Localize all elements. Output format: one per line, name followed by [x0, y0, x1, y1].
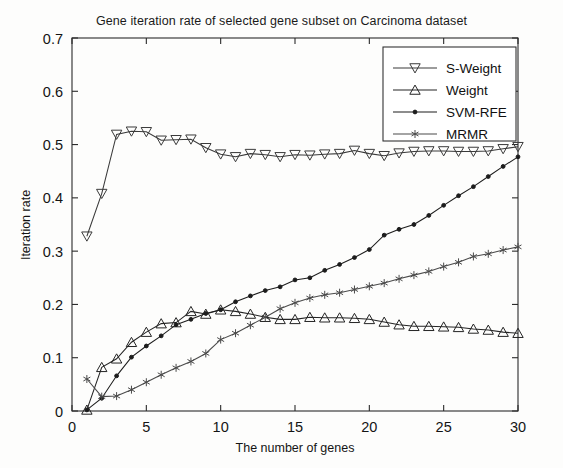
- y-tick-label: 0.1: [43, 350, 63, 366]
- data-point-dot: [234, 300, 238, 304]
- y-axis-title: Iteration rate: [19, 190, 33, 260]
- data-point-dot: [278, 285, 282, 289]
- data-point-dot: [501, 165, 505, 169]
- x-tick-label: 30: [510, 419, 526, 435]
- data-point-asterisk: [292, 299, 299, 307]
- legend-label: MRMR: [446, 127, 488, 142]
- data-point-asterisk: [277, 305, 284, 313]
- data-point-dot: [308, 276, 312, 280]
- data-point-asterisk: [187, 357, 194, 365]
- data-point-dot: [382, 233, 386, 237]
- y-axis-tick-labels: 00.10.20.30.40.50.60.7: [43, 31, 63, 420]
- data-point-dot: [323, 268, 327, 272]
- y-tick-label: 0: [55, 404, 63, 420]
- x-axis-tick-labels: 051015202530: [68, 419, 526, 435]
- data-point-dot: [457, 194, 461, 198]
- data-point-asterisk: [143, 378, 150, 386]
- x-axis-title: The number of genes: [236, 441, 355, 455]
- x-tick-label: 10: [213, 419, 229, 435]
- data-point-dot: [204, 312, 208, 316]
- data-point-triangle-down: [82, 232, 92, 241]
- data-point-asterisk: [410, 271, 417, 279]
- data-point-dot: [412, 223, 416, 227]
- data-point-dot: [486, 175, 490, 179]
- data-point-dot: [174, 323, 178, 327]
- data-point-dot: [427, 214, 431, 218]
- data-point-asterisk: [232, 329, 239, 337]
- data-point-dot: [189, 317, 193, 321]
- series-layer: [82, 127, 524, 414]
- legend-label: SVM-RFE: [446, 105, 507, 120]
- y-tick-label: 0.5: [43, 137, 63, 153]
- data-point-asterisk: [247, 321, 254, 329]
- data-point-dot: [263, 289, 267, 293]
- data-point-asterisk: [128, 386, 135, 394]
- y-tick-label: 0.7: [43, 31, 63, 47]
- series-mrmr: [83, 243, 521, 401]
- line-chart: 00.10.20.30.40.50.60.7 051015202530 Iter…: [0, 0, 563, 468]
- series-weight: [82, 305, 524, 414]
- x-tick-label: 0: [68, 419, 76, 435]
- legend-label: Weight: [446, 83, 488, 98]
- y-tick-label: 0.2: [43, 297, 63, 313]
- x-tick-label: 20: [361, 419, 377, 435]
- data-point-asterisk: [158, 371, 165, 379]
- data-point-asterisk: [173, 364, 180, 372]
- series-svm-rfe: [85, 155, 520, 412]
- data-point-dot: [159, 334, 163, 338]
- series-s-weight: [82, 127, 524, 241]
- data-point-asterisk: [440, 263, 447, 271]
- data-point-dot: [367, 248, 371, 252]
- data-point-asterisk: [396, 275, 403, 283]
- y-tick-label: 0.4: [43, 190, 63, 206]
- data-point-dot: [353, 256, 357, 260]
- y-tick-label: 0.3: [43, 244, 63, 260]
- data-point-dot: [130, 355, 134, 359]
- chart-legend: S-WeightWeightSVM-RFEMRMR: [383, 47, 516, 142]
- data-point-asterisk: [425, 267, 432, 275]
- x-tick-label: 15: [287, 419, 303, 435]
- data-point-dot: [338, 263, 342, 267]
- data-point-dot: [472, 185, 476, 189]
- data-point-dot: [249, 294, 253, 298]
- x-tick-label: 5: [142, 419, 150, 435]
- x-tick-label: 25: [436, 419, 452, 435]
- data-point-dot: [115, 374, 119, 378]
- data-point-dot: [293, 278, 297, 282]
- data-point-dot: [219, 308, 223, 312]
- data-point-asterisk: [455, 258, 462, 266]
- data-point-dot: [516, 155, 520, 159]
- legend-label: S-Weight: [446, 61, 502, 76]
- y-tick-label: 0.6: [43, 84, 63, 100]
- data-point-dot: [144, 344, 148, 348]
- data-point-dot: [397, 227, 401, 231]
- data-point-dot: [413, 110, 417, 114]
- data-point-dot: [85, 408, 89, 412]
- data-point-dot: [442, 203, 446, 207]
- figure-container: Gene iteration rate of selected gene sub…: [0, 0, 563, 468]
